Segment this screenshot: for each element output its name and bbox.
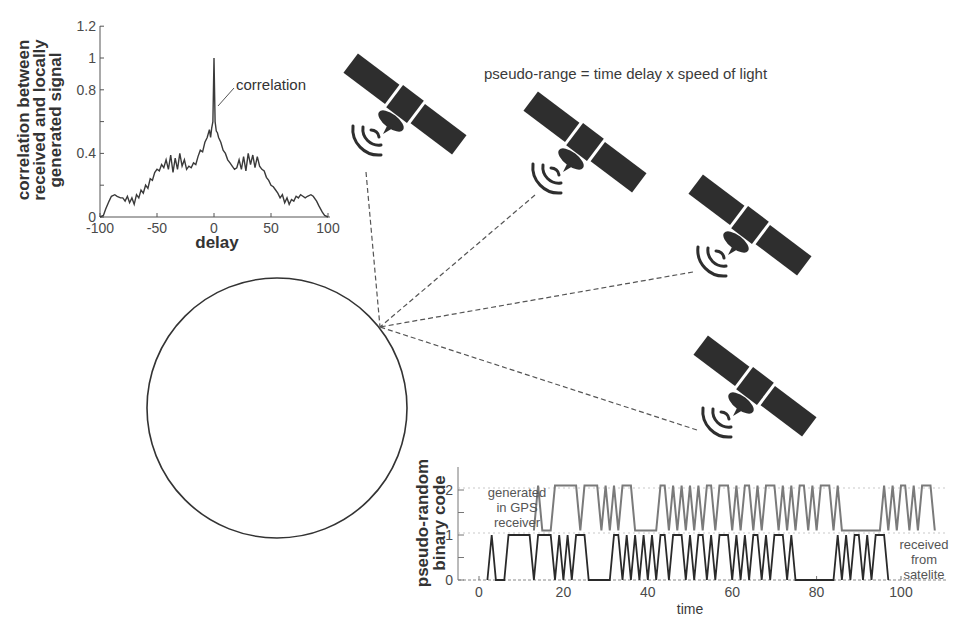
signal-path-line — [380, 327, 697, 430]
generated-label-line-1: generated — [488, 485, 547, 500]
signal-paths — [366, 172, 697, 430]
received-label-line-3: satelite — [903, 567, 944, 582]
x-tick-label: 60 — [724, 584, 740, 600]
x-tick-label: 100 — [889, 584, 913, 600]
satellite-icon — [342, 52, 467, 156]
signal-path-line — [380, 195, 535, 327]
generated-code-line — [534, 486, 935, 531]
correlation-annotation: correlation — [236, 76, 306, 93]
x-tick-label: 80 — [809, 584, 825, 600]
binary-code-plot: 012 020406080100 generated in GPS receiv… — [413, 459, 949, 617]
signal-path-line — [366, 172, 380, 327]
received-label-line-2: from — [911, 552, 937, 567]
y-axis-label-line-3: generated signal — [46, 52, 65, 187]
x-tick-label: -50 — [147, 220, 167, 236]
y-tick-label: 1 — [88, 50, 96, 66]
satellite-icon — [687, 173, 812, 277]
gps-diagram: 00.40.811.2 -100-50050100 correlation de… — [0, 0, 960, 628]
received-code-line — [487, 535, 888, 580]
x-tick-label: 50 — [263, 220, 279, 236]
y-tick-label: 1.2 — [77, 18, 97, 34]
x-tick-label: 40 — [640, 584, 656, 600]
satellite-icon — [692, 334, 817, 438]
y-tick-label: 0 — [445, 572, 453, 588]
satellite-icon — [522, 90, 647, 194]
x-tick-label: 0 — [475, 584, 483, 600]
x-axis-label: time — [677, 601, 704, 617]
x-tick-label: 100 — [316, 220, 340, 236]
x-tick-label: 20 — [556, 584, 572, 600]
satellites — [342, 52, 817, 438]
pseudo-range-formula: pseudo-range = time delay x speed of lig… — [484, 65, 768, 82]
correlation-plot: 00.40.811.2 -100-50050100 correlation de… — [14, 18, 340, 252]
earth-receiver-circle — [147, 278, 407, 538]
generated-label-line-3: receiver — [494, 515, 541, 530]
signal-path-line — [380, 272, 693, 327]
x-axis-label: delay — [195, 233, 239, 252]
x-tick-label: -100 — [86, 220, 114, 236]
annotation-leader — [218, 88, 234, 106]
y-tick-label: 0.4 — [77, 145, 97, 161]
received-label-line-1: received — [899, 537, 948, 552]
generated-label-line-2: in GPS — [496, 500, 538, 515]
y-tick-label: 0.8 — [77, 82, 97, 98]
y-axis-label-line-2: binary code — [430, 475, 449, 570]
